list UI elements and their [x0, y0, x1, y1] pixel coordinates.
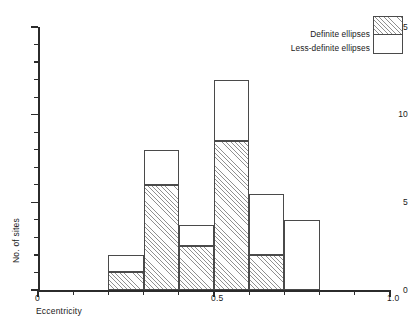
bar-less-definite-ellipses-bin-2 [179, 225, 214, 246]
bar-less-definite-ellipses-bin-5 [284, 220, 319, 290]
legend-label-definite-ellipses: Definite ellipses [310, 30, 370, 39]
bar-definite-ellipses-bin-3 [214, 141, 249, 290]
bar-definite-ellipses-bin-4 [249, 255, 284, 290]
legend-swatch-less-definite-ellipses [374, 35, 402, 53]
legend-swatch-box [373, 16, 403, 54]
chart-legend: Definite ellipses Less-definite ellipses [258, 16, 403, 54]
legend-swatch-definite-ellipses [374, 17, 402, 35]
bar-definite-ellipses-bin-0 [108, 272, 143, 290]
legend-label-less-definite-ellipses: Less-definite ellipses [291, 44, 370, 53]
bar-less-definite-ellipses-bin-4 [249, 194, 284, 255]
bar-definite-ellipses-bin-2 [179, 246, 214, 290]
bar-less-definite-ellipses-bin-3 [214, 80, 249, 141]
bar-definite-ellipses-bin-1 [144, 185, 179, 290]
histogram-chart: 051015 00.51.0 No. of sites Eccentricity… [0, 0, 408, 333]
bar-less-definite-ellipses-bin-1 [144, 150, 179, 185]
bar-less-definite-ellipses-bin-0 [108, 255, 143, 273]
